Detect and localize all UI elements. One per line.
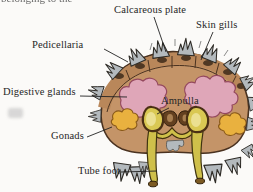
tube-foot-sucker: [149, 181, 158, 187]
tube-foot-sucker: [196, 178, 205, 184]
label-skin-gills: Skin gills: [196, 19, 237, 31]
label-tube-foot: Tube foot: [78, 165, 120, 177]
label-ampulla: Ampulla: [161, 95, 199, 107]
label-gonads: Gonads: [51, 130, 84, 142]
label-pedicellaria: Pedicellaria: [32, 39, 83, 51]
label-digestive-glands: Digestive glands: [3, 86, 76, 98]
pedicellaria-leader: [104, 49, 128, 62]
label-calcareous-plate: Calcareous plate: [114, 4, 186, 16]
figure-sea-star-cross-section: belonging to the: [0, 0, 253, 192]
